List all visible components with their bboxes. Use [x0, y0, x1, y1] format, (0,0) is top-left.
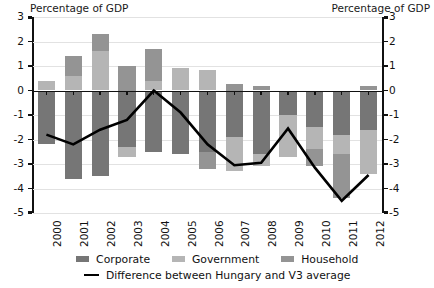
y-axis-tick-label: 2 — [4, 35, 24, 47]
y-axis-tick — [28, 41, 32, 42]
legend-item-difference: Difference between Hungary and V3 averag… — [84, 268, 351, 282]
y-axis-tick — [384, 114, 388, 115]
x-axis-label: 2009 — [293, 220, 305, 247]
legend-label-difference: Difference between Hungary and V3 averag… — [106, 269, 350, 282]
x-axis-label: 2003 — [132, 220, 144, 247]
y-axis-tick-label: -5 — [389, 206, 409, 218]
y-axis-tick-label: 2 — [389, 35, 409, 47]
x-axis-label: 2001 — [78, 220, 90, 247]
y-axis-tick — [384, 65, 388, 66]
x-axis-label: 2012 — [374, 220, 386, 247]
legend-item-government: Government — [172, 252, 260, 266]
y-axis-tick-label: -2 — [4, 133, 24, 145]
y-axis-tick — [384, 139, 388, 140]
legend-line-row: Difference between Hungary and V3 averag… — [0, 268, 434, 282]
y-axis-tick-label: 1 — [389, 59, 409, 71]
y-axis-tick — [28, 163, 32, 164]
y-axis-tick-label: 0 — [4, 84, 24, 96]
chart-figure: Percentage of GDP Percentage of GDP Corp… — [0, 0, 434, 288]
x-axis-label: 2011 — [347, 220, 359, 247]
y-axis-tick-label: 0 — [389, 84, 409, 96]
x-axis-label: 2006 — [213, 220, 225, 247]
y-axis-tick-label: -4 — [4, 182, 24, 194]
household-swatch-icon — [281, 256, 294, 262]
corporate-swatch-icon — [76, 256, 89, 262]
y-axis-tick-label: -2 — [389, 133, 409, 145]
axis-end-cap — [382, 211, 388, 213]
y-axis-tick — [28, 114, 32, 115]
x-axis-label: 2007 — [239, 220, 251, 247]
x-axis-label: 2002 — [105, 220, 117, 247]
y-axis-tick — [384, 90, 388, 91]
y-axis-tick — [384, 41, 388, 42]
y-axis-tick-label: -1 — [389, 108, 409, 120]
y-axis-tick-label: 1 — [4, 59, 24, 71]
legend-label-government: Government — [192, 253, 259, 266]
government-swatch-icon — [172, 256, 185, 262]
x-axis-label: 2008 — [266, 220, 278, 247]
y-axis-tick — [28, 90, 32, 91]
x-axis-label: 2004 — [159, 220, 171, 247]
legend-series-row: Corporate Government Household — [0, 252, 434, 266]
y-axis-tick — [28, 188, 32, 189]
right-axis-title: Percentage of GDP — [332, 2, 430, 14]
y-axis-tick-label: 3 — [389, 10, 409, 22]
y-axis-tick-label: -3 — [4, 157, 24, 169]
y-axis-tick-label: -3 — [389, 157, 409, 169]
line-swatch-icon — [84, 274, 99, 276]
difference-line-series — [33, 17, 382, 213]
y-axis-tick-label: -5 — [4, 206, 24, 218]
left-axis-title: Percentage of GDP — [30, 2, 128, 14]
legend-label-corporate: Corporate — [96, 253, 150, 266]
y-axis-tick — [28, 139, 32, 140]
y-axis-tick — [28, 65, 32, 66]
y-axis-tick-label: 3 — [4, 10, 24, 22]
axis-end-cap — [382, 17, 388, 19]
y-axis-tick — [384, 163, 388, 164]
y-axis-tick — [384, 188, 388, 189]
x-axis-label: 2005 — [186, 220, 198, 247]
x-axis-label: 2010 — [320, 220, 332, 247]
legend-item-household: Household — [281, 252, 359, 266]
y-axis-tick-label: -1 — [4, 108, 24, 120]
legend-label-household: Household — [301, 253, 358, 266]
legend-item-corporate: Corporate — [76, 252, 150, 266]
x-axis-label: 2000 — [51, 220, 63, 247]
y-axis-tick-label: -4 — [389, 182, 409, 194]
gridline — [33, 213, 382, 214]
